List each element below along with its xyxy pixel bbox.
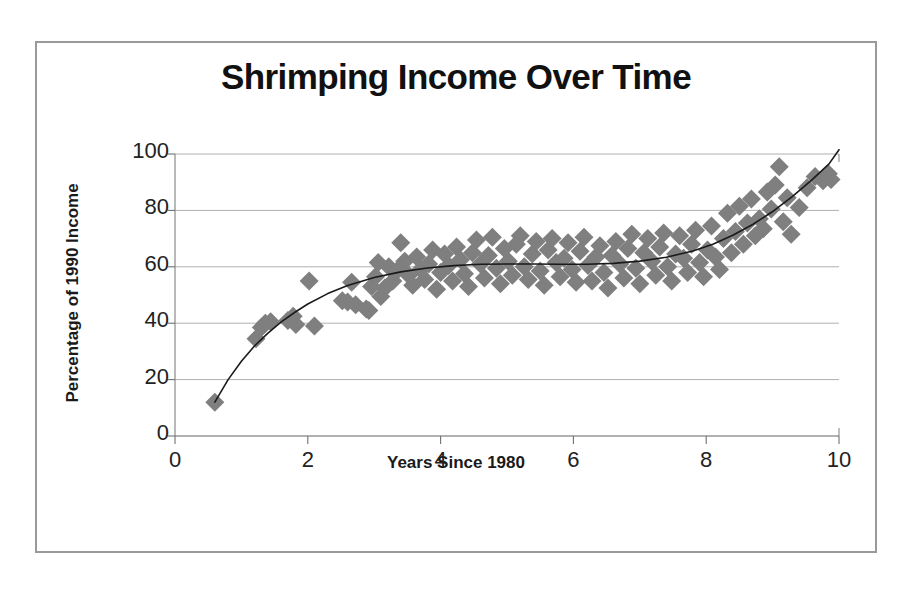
data-point-marker [702,216,721,235]
data-point-marker [598,278,617,297]
data-point-marker [686,221,705,240]
tick-marks [168,154,839,444]
chart-container: Shrimping Income Over Time Percentage of… [35,41,877,553]
data-point-marker [391,233,410,252]
data-point-marker [694,267,713,286]
data-point-marker [630,274,649,293]
data-point-marker [305,317,324,336]
data-point-marker [300,271,319,290]
data-point-marker [622,225,641,244]
data-point-marker [575,228,594,247]
data-point-marker [483,228,502,247]
data-point-marker [535,276,554,295]
data-point-marker [770,157,789,176]
plot-area [37,43,879,555]
data-point-marker [654,223,673,242]
data-point-marker [662,271,681,290]
axis-lines [175,154,839,436]
gridlines [175,154,839,436]
data-point-markers [205,157,840,411]
